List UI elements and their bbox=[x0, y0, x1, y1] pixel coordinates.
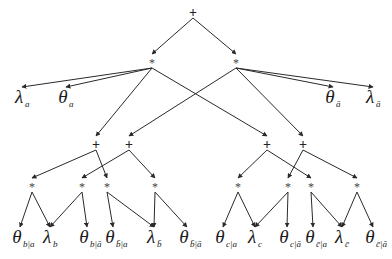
sum-node-s4: + bbox=[299, 137, 307, 152]
theta-symbol: θ bbox=[58, 86, 67, 107]
leaf-lambda_cbar: λc̄ bbox=[334, 226, 350, 249]
edges-layer bbox=[20, 18, 373, 227]
subscript: b|ā bbox=[90, 239, 102, 249]
leaf-theta_b_abar: θb|ā bbox=[79, 226, 102, 249]
subscript: b bbox=[53, 239, 58, 249]
lambda-symbol: λ bbox=[42, 226, 51, 247]
subscript: b|a bbox=[23, 239, 35, 249]
product-node-p3: * bbox=[104, 180, 110, 194]
edge-s3-to-p7 bbox=[267, 150, 311, 178]
theta-symbol: θ bbox=[215, 226, 224, 247]
leaf-theta_c_a: θc|a bbox=[215, 226, 237, 249]
product-node-m1: * bbox=[149, 56, 155, 70]
lambda-symbol: λ bbox=[146, 226, 155, 247]
leaf-theta_a: θa bbox=[58, 86, 74, 109]
edge-m2-to-s2 bbox=[129, 68, 236, 136]
lambda-symbol: λ bbox=[334, 226, 343, 247]
edge-root-to-m2 bbox=[193, 18, 236, 54]
edge-s4-to-p8 bbox=[303, 150, 357, 178]
edge-s1-to-p1 bbox=[32, 150, 96, 178]
subscript: c̄|a bbox=[316, 239, 327, 249]
edge-p4-to-theta_bbar_abar bbox=[155, 192, 187, 227]
subscript: c̄ bbox=[345, 239, 350, 249]
operator-nodes-layer: +**++++******** bbox=[29, 5, 360, 194]
edge-m2-to-s4 bbox=[236, 68, 303, 136]
edge-p1-to-lambda_b bbox=[32, 192, 50, 227]
edge-root-to-m1 bbox=[152, 18, 193, 54]
theta-symbol: θ bbox=[12, 226, 21, 247]
theta-symbol: θ bbox=[179, 226, 188, 247]
edge-p7-to-theta_cbar_a bbox=[311, 192, 313, 227]
sum-node-root: + bbox=[189, 5, 197, 20]
sum-node-s1: + bbox=[92, 137, 100, 152]
subscript: ā bbox=[376, 99, 381, 109]
edge-m1-to-s3 bbox=[152, 68, 267, 136]
theta-symbol: θ bbox=[79, 226, 88, 247]
leaf-theta_cbar_abar: θc̄|ā bbox=[365, 226, 387, 249]
subscript: a bbox=[69, 99, 74, 109]
edge-p8-to-theta_cbar_abar bbox=[357, 192, 373, 227]
edge-m2-to-lambda_abar bbox=[236, 68, 373, 87]
product-node-p8: * bbox=[354, 180, 360, 194]
theta-symbol: θ bbox=[279, 226, 288, 247]
subscript: c|ā bbox=[290, 239, 301, 249]
sum-node-s2: + bbox=[125, 137, 133, 152]
theta-symbol: θ bbox=[365, 226, 374, 247]
theta-symbol: θ bbox=[105, 226, 114, 247]
theta-symbol: θ bbox=[305, 226, 314, 247]
edge-s4-to-p6 bbox=[288, 150, 303, 178]
parameter-leaves-layer: λaθaθāλāθb|aλbθb|āθb̄|aλb̄θb̄|āθc|aλcθc|… bbox=[12, 86, 387, 249]
sum-node-s3: + bbox=[263, 137, 271, 152]
edge-p7-to-lambda_cbar bbox=[311, 192, 342, 227]
subscript: a bbox=[25, 99, 30, 109]
edge-m2-to-theta_abar bbox=[236, 68, 333, 87]
product-node-p5: * bbox=[235, 180, 241, 194]
edge-p2-to-lambda_b bbox=[50, 192, 82, 227]
leaf-theta_abar: θā bbox=[325, 86, 341, 109]
lambda-symbol: λ bbox=[365, 86, 374, 107]
leaf-lambda_c: λc bbox=[247, 226, 262, 249]
lambda-symbol: λ bbox=[247, 226, 256, 247]
edge-p6-to-theta_c_abar bbox=[287, 192, 288, 227]
theta-symbol: θ bbox=[325, 86, 334, 107]
edge-m1-to-lambda_a bbox=[22, 68, 152, 87]
leaf-theta_bbar_abar: θb̄|ā bbox=[179, 226, 202, 249]
edge-p3-to-theta_bbar_a bbox=[107, 192, 113, 227]
subscript: b̄|a bbox=[116, 239, 128, 249]
arithmetic-circuit-diagram: +**++++******** λaθaθāλāθb|aλbθb|āθb̄|aλ… bbox=[0, 0, 392, 259]
edge-p4-to-lambda_bbar bbox=[154, 192, 155, 227]
leaf-lambda_a: λa bbox=[14, 86, 30, 109]
edge-p2-to-theta_b_abar bbox=[82, 192, 87, 227]
leaf-theta_bbar_a: θb̄|a bbox=[105, 226, 128, 249]
product-node-p1: * bbox=[29, 180, 35, 194]
product-node-p2: * bbox=[79, 180, 85, 194]
subscript: c bbox=[258, 239, 262, 249]
subscript: b̄ bbox=[157, 239, 162, 249]
leaf-theta_b_a: θb|a bbox=[12, 226, 35, 249]
edge-p5-to-theta_c_a bbox=[223, 192, 238, 227]
subscript: ā bbox=[336, 99, 341, 109]
leaf-theta_cbar_a: θc̄|a bbox=[305, 226, 327, 249]
subscript: c̄|ā bbox=[376, 239, 387, 249]
edge-p8-to-lambda_cbar bbox=[342, 192, 357, 227]
edge-p6-to-lambda_c bbox=[255, 192, 288, 227]
lambda-symbol: λ bbox=[14, 86, 23, 107]
leaf-lambda_bbar: λb̄ bbox=[146, 226, 162, 249]
leaf-lambda_b: λb bbox=[42, 226, 58, 249]
edge-s3-to-p5 bbox=[238, 150, 267, 178]
edge-s2-to-p4 bbox=[129, 150, 155, 178]
product-node-p4: * bbox=[152, 180, 158, 194]
edge-p3-to-lambda_bbar bbox=[107, 192, 154, 227]
subscript: b̄|ā bbox=[190, 239, 202, 249]
edge-p5-to-lambda_c bbox=[238, 192, 255, 227]
edge-p1-to-theta_b_a bbox=[20, 192, 32, 227]
product-node-p6: * bbox=[285, 180, 291, 194]
subscript: c|a bbox=[226, 239, 237, 249]
product-node-m2: * bbox=[233, 56, 239, 70]
leaf-theta_c_abar: θc|ā bbox=[279, 226, 301, 249]
product-node-p7: * bbox=[308, 180, 314, 194]
leaf-lambda_abar: λā bbox=[365, 86, 381, 109]
